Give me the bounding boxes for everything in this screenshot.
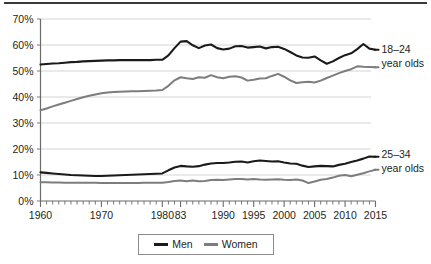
- legend-swatch-men-icon: [154, 243, 168, 245]
- legend-item-women: Women: [204, 239, 258, 250]
- y-tick-label: 30%: [12, 117, 33, 129]
- x-tick-label: 83: [175, 209, 187, 221]
- x-tick-label: 2000: [272, 209, 296, 221]
- x-tick-label: 1980: [151, 209, 175, 221]
- series-annotations: 18–24year olds25–34year olds: [375, 43, 425, 174]
- chart-legend: Men Women: [138, 234, 274, 255]
- data-series: [41, 41, 376, 183]
- y-tick-label: 70%: [12, 13, 33, 25]
- y-tick-label: 50%: [12, 65, 33, 77]
- annotation-label-group-18-24: 18–24: [382, 43, 411, 55]
- x-tick-label: 2015: [364, 209, 388, 221]
- annotation-label-group-25-34: year olds: [382, 162, 425, 174]
- y-tick-label: 60%: [12, 39, 33, 51]
- x-tick-label: 1970: [90, 209, 114, 221]
- series-line-men-25-34: [41, 157, 376, 177]
- chart-container: 0%10%20%30%40%50%60%70% 1960197019808319…: [0, 0, 431, 264]
- y-tick-label: 10%: [12, 169, 33, 181]
- y-tick-label: 20%: [12, 143, 33, 155]
- legend-label-women: Women: [222, 239, 258, 250]
- x-axis-tick-labels: 19601970198083199019952000200520102015: [29, 209, 388, 221]
- legend-label-men: Men: [172, 239, 192, 250]
- line-chart-canvas: 0%10%20%30%40%50%60%70% 1960197019808319…: [0, 0, 431, 264]
- x-tick-label: 1995: [242, 209, 266, 221]
- legend-swatch-women-icon: [204, 243, 218, 245]
- y-tick-label: 0%: [18, 195, 33, 207]
- gridlines: [41, 19, 372, 175]
- annotation-label-group-18-24: year olds: [382, 57, 425, 69]
- x-tick-label: 1990: [212, 209, 236, 221]
- annotation-label-group-25-34: 25–34: [382, 148, 411, 160]
- series-line-women-18-24: [41, 66, 376, 110]
- x-tick-label: 1960: [29, 209, 53, 221]
- y-tick-label: 40%: [12, 91, 33, 103]
- legend-item-men: Men: [154, 239, 192, 250]
- y-axis-tick-labels: 0%10%20%30%40%50%60%70%: [12, 13, 33, 207]
- x-tick-label: 2010: [333, 209, 357, 221]
- x-axis-tickmarks: [41, 201, 376, 207]
- x-tick-label: 2005: [303, 209, 327, 221]
